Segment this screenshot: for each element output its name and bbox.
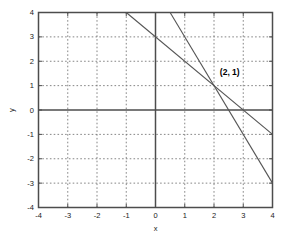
line-chart-canvas: -4-3-2-101234-4-3-2-101234xy(2, 1): [0, 0, 290, 240]
x-axis-tick-label: 2: [212, 211, 216, 220]
intersection-point-label: (2, 1): [220, 67, 240, 77]
y-axis-label: y: [7, 108, 16, 112]
y-axis-tick-label: 1: [30, 81, 34, 90]
x-axis-tick-label: 1: [183, 211, 187, 220]
x-axis-tick-label: -2: [94, 211, 101, 220]
y-axis-tick-label: 0: [30, 106, 34, 115]
data-line-line-1: [126, 13, 272, 135]
x-axis-tick-label: -3: [64, 211, 71, 220]
x-axis-tick-label: 0: [153, 211, 157, 220]
y-axis-tick-label: 4: [30, 8, 34, 17]
chart-figure: -4-3-2-101234-4-3-2-101234xy(2, 1): [0, 0, 290, 240]
y-axis-tick-label: 3: [30, 32, 34, 41]
x-axis-tick-label: -4: [35, 211, 42, 220]
x-axis-tick-label: 4: [270, 211, 274, 220]
y-axis-tick-label: 2: [30, 57, 34, 66]
x-axis-tick-label: -1: [123, 211, 130, 220]
y-axis-tick-label: -2: [27, 154, 34, 163]
y-axis-tick-label: -1: [27, 130, 34, 139]
x-axis-tick-label: 3: [241, 211, 245, 220]
data-line-line-2: [170, 13, 272, 184]
x-axis-label: x: [154, 224, 158, 233]
y-axis-tick-label: -3: [27, 179, 34, 188]
y-axis-tick-label: -4: [27, 203, 34, 212]
